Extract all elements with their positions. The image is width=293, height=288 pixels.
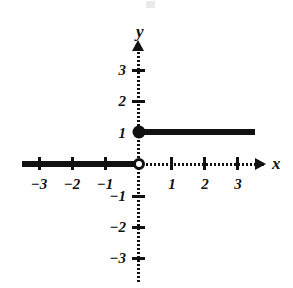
- y-tick-label-neg1: −1: [98, 188, 126, 205]
- x-tick-label-pos2: 2: [201, 176, 209, 193]
- x-axis-label: x: [272, 154, 281, 174]
- open-endpoint-marker: [133, 158, 145, 170]
- x-tick-pos1: [170, 157, 173, 170]
- y-tick-neg1: [132, 195, 145, 198]
- y-tick-label-pos3: 3: [108, 62, 126, 79]
- function-branch-right: [138, 129, 255, 135]
- graph-figure: −3 −2 −1 1 2 3 3 2 1 −1 −2 −3 y x: [0, 0, 293, 288]
- x-tick-label-pos1: 1: [168, 176, 176, 193]
- x-axis-arrow-icon: [255, 158, 266, 170]
- y-tick-label-neg3: −3: [98, 250, 126, 267]
- y-tick-label-neg2: −2: [98, 219, 126, 236]
- x-tick-label-neg2: −2: [64, 176, 81, 193]
- y-tick-label-pos2: 2: [108, 93, 126, 110]
- y-tick-pos3: [132, 69, 145, 72]
- y-axis-label: y: [136, 22, 144, 42]
- scan-artifact: [146, 1, 155, 8]
- x-tick-pos2: [203, 157, 206, 170]
- x-tick-label-neg3: −3: [31, 176, 48, 193]
- closed-endpoint-marker: [133, 126, 146, 139]
- x-tick-pos3: [236, 157, 239, 170]
- y-tick-label-pos1: 1: [108, 125, 126, 142]
- x-tick-label-pos3: 3: [234, 176, 242, 193]
- y-tick-pos2: [132, 100, 145, 103]
- y-tick-neg2: [132, 226, 145, 229]
- function-branch-left: [22, 161, 140, 167]
- y-tick-neg3: [132, 257, 145, 260]
